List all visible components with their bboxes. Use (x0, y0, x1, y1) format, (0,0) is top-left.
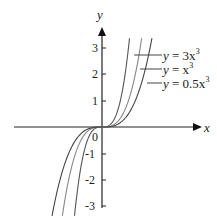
y-tick-neg1: -1 (85, 147, 95, 161)
cubic-functions-chart: x y 3 2 1 0 -1 -2 -3 y = 3x3 y = x3 y = … (0, 0, 217, 221)
y-tick-3: 3 (92, 41, 98, 55)
legend-label-0.5x3: y = 0.5x3 (161, 75, 209, 91)
x-axis-label: x (203, 120, 210, 135)
y-tick-2: 2 (92, 67, 98, 81)
y-tick-1: 1 (92, 94, 98, 108)
y-tick-neg3: -3 (85, 199, 95, 213)
origin-label: 0 (92, 130, 98, 144)
x-axis-arrow-icon (193, 123, 202, 131)
legend-label-x3: y = x3 (161, 61, 193, 77)
y-axis-arrow-icon (98, 27, 106, 36)
y-tick-neg2: -2 (85, 173, 95, 187)
legend-label-3x3: y = 3x3 (161, 47, 200, 63)
y-axis-label: y (95, 7, 103, 22)
